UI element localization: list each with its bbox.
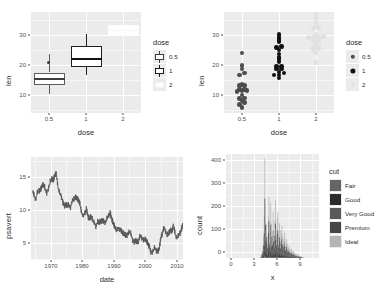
boxplot-x-tickmark-2	[123, 113, 124, 115]
boxplot-whisker-lower-0.5	[49, 85, 50, 95]
boxplot-x-tickmark-1	[86, 113, 87, 115]
hist-x-tickmark-9	[300, 258, 301, 260]
plot-boxplot-tooth-growth: len 10 20 30	[0, 0, 193, 147]
hist-x-tick-9: 9	[290, 261, 310, 267]
boxplot-whisker-upper-1	[86, 34, 87, 46]
figure-grid: len 10 20 30	[0, 0, 387, 294]
line-x-tickmark-1990	[114, 260, 115, 262]
boxplot-whisker-lower-1	[86, 67, 87, 75]
dotplot-legend-item-0.5[interactable]: 0.5	[346, 50, 371, 63]
dotplot-point	[237, 73, 242, 78]
dotplot-x-tickmark-2	[316, 113, 317, 115]
line-y-tick-15: 15	[10, 174, 26, 180]
boxplot-legend-item-0.5[interactable]: 0.5	[153, 50, 178, 63]
line-y-tick-5: 5	[10, 240, 26, 246]
hist-bar-segment	[301, 257, 302, 258]
dotplot-y-tickmark-30	[221, 35, 223, 36]
hist-panel	[226, 154, 319, 258]
dotplot-point	[240, 88, 245, 93]
boxplot-legend-key-2	[153, 78, 166, 91]
boxplot-outlier-0.5	[47, 61, 50, 64]
dotplot-legend-item-2[interactable]: 2	[346, 78, 371, 91]
dotplot-point	[321, 34, 326, 39]
line-series-path	[31, 157, 183, 260]
hist-bar-segment	[298, 255, 299, 256]
boxplot-x-tick-1: 1	[74, 116, 98, 122]
hist-y-tickmark-400	[223, 160, 225, 161]
dotplot-point	[240, 51, 245, 56]
hist-legend-label-good: Good	[345, 196, 360, 203]
boxplot-panel	[31, 12, 141, 113]
plot-histogram-diamonds-x: count 0 100 200 300 400	[193, 147, 387, 294]
line-x-tickmark-2000	[145, 260, 146, 262]
hist-legend-key-good	[329, 193, 342, 206]
boxplot-median-0.5	[34, 78, 65, 79]
boxplot-legend-item-2[interactable]: 2	[153, 78, 178, 91]
hist-legend-item-ideal[interactable]: Ideal	[329, 235, 374, 248]
line-x-axis-title: date	[31, 275, 183, 284]
line-y-tickmark-15	[28, 177, 30, 178]
dotplot-panel	[224, 12, 334, 113]
dotplot-point	[277, 39, 282, 44]
hist-bar-segment	[271, 223, 272, 237]
line-x-tick-1980: 1980	[67, 263, 97, 269]
boxplot-y-tick-20: 20	[12, 62, 26, 68]
line-panel	[31, 157, 183, 260]
hist-y-tick-0: 0	[201, 249, 221, 255]
boxplot-x-tickmark-0.5	[49, 113, 50, 115]
dotplot-legend-item-1[interactable]: 1	[346, 64, 371, 77]
boxplot-median-2	[108, 30, 139, 31]
dotplot-y-tickmark-20	[221, 65, 223, 66]
hist-legend-title: cut	[329, 167, 374, 176]
dotplot-y-tick-30: 30	[205, 32, 219, 38]
hist-y-tick-100: 100	[201, 226, 221, 232]
dotplot-legend-label-0.5: 0.5	[362, 53, 371, 60]
hist-legend: cut Fair Good Very Good Premium Ideal	[329, 167, 374, 249]
dotplot-point	[314, 16, 319, 21]
line-x-tickmark-1970	[51, 260, 52, 262]
hist-legend-item-premium[interactable]: Premium	[329, 221, 374, 234]
line-x-tickmark-1980	[82, 260, 83, 262]
line-y-tickmark-5	[28, 243, 30, 244]
hist-bar-segment	[269, 197, 270, 222]
hist-legend-key-very-good	[329, 207, 342, 220]
hist-legend-item-fair[interactable]: Fair	[329, 179, 374, 192]
line-y-tick-10: 10	[10, 207, 26, 213]
dotplot-point	[316, 46, 321, 51]
boxplot-legend-label-2: 2	[169, 81, 172, 88]
boxplot-y-tickmark-10	[28, 95, 30, 96]
hist-bars	[226, 154, 319, 258]
boxplot-x-tick-2: 2	[111, 116, 135, 122]
plot-line-economics-psavert: psavert 5 10 15	[0, 147, 193, 294]
hist-bar-segment	[275, 200, 276, 223]
hist-x-tickmark-6	[277, 258, 278, 260]
boxplot-y-tickmark-30	[28, 35, 30, 36]
dotplot-point	[282, 71, 287, 76]
dotplot-x-tickmark-0.5	[242, 113, 243, 115]
hist-bar-segment	[273, 230, 274, 241]
boxplot-legend: dose 0.5 1	[153, 38, 178, 92]
dotplot-point	[316, 25, 321, 30]
line-x-tick-1990: 1990	[99, 263, 129, 269]
line-y-axis-title: psavert	[4, 187, 13, 239]
hist-legend-item-very-good[interactable]: Very Good	[329, 207, 374, 220]
hist-bar-segment	[270, 203, 271, 225]
hist-legend-label-ideal: Ideal	[345, 238, 358, 245]
dotplot-point	[235, 89, 240, 94]
hist-legend-item-good[interactable]: Good	[329, 193, 374, 206]
dotplot-y-tick-10: 10	[205, 92, 219, 98]
boxplot-legend-item-1[interactable]: 1	[153, 64, 178, 77]
dotplot-point	[242, 100, 247, 105]
hist-bar-segment	[266, 223, 267, 237]
line-x-tickmark-2010	[177, 260, 178, 262]
hist-x-tick-3: 3	[244, 261, 264, 267]
boxplot-legend-label-0.5: 0.5	[169, 53, 178, 60]
hist-x-tickmark-0	[231, 258, 232, 260]
dotplot-legend-label-2: 2	[362, 81, 365, 88]
boxplot-legend-title: dose	[153, 38, 178, 47]
dotplot-x-tickmark-1	[279, 113, 280, 115]
hist-y-tick-400: 400	[201, 157, 221, 163]
hist-bar-segment	[280, 230, 281, 241]
boxplot-box-1	[71, 46, 102, 67]
plot-dotplot-tooth-growth: len 10 20 30 0.5 1 2 dose dose	[193, 0, 387, 147]
